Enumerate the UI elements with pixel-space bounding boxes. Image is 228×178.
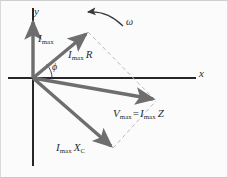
equals-sign: =: [133, 107, 139, 119]
i-max-r-sub: max: [72, 54, 84, 61]
v-max-z-suffix: Z: [158, 107, 164, 119]
i-max-xc-sub: max: [60, 147, 72, 154]
phi-angle-label: ϕ: [52, 62, 57, 72]
omega-rotation-arrow: [88, 12, 123, 26]
v-max-i-sub: max: [144, 113, 156, 120]
v-max-base: V: [113, 107, 120, 119]
i-max-r-label: ImaxR: [68, 49, 92, 60]
phasor-diagram-figure: y x ω ϕ Imax ImaxR Vmax=ImaxZ ImaxXC: [0, 0, 228, 178]
x-axis-label: x: [199, 68, 204, 79]
i-max-label: Imax: [38, 33, 54, 44]
v-max-sub: max: [120, 113, 132, 120]
i-max-xc-suffix-sub: C: [80, 147, 85, 154]
omega-label: ω: [126, 17, 133, 27]
i-max-sub: max: [42, 38, 54, 45]
y-axis-label: y: [34, 6, 39, 17]
i-max-r-suffix: R: [86, 48, 93, 60]
i-max-xc-label: ImaxXC: [56, 142, 85, 153]
v-max-equals-i-max-z-label: Vmax=ImaxZ: [113, 108, 164, 119]
phasor-diagram-canvas: [0, 0, 228, 178]
axis-group: [8, 8, 196, 166]
